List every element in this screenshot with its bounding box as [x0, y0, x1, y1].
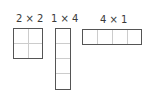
grid-2x2 [13, 28, 43, 59]
label-1x4: 1 × 4 [51, 14, 78, 24]
divider [14, 43, 42, 44]
divider [127, 30, 128, 44]
grid-4x1 [82, 29, 142, 45]
divider [56, 43, 70, 44]
label-4x1: 4 × 1 [100, 15, 127, 25]
divider [112, 30, 113, 44]
divider [56, 58, 70, 59]
grid-1x4 [55, 28, 71, 90]
label-2x2: 2 × 2 [16, 14, 43, 24]
divider [56, 73, 70, 74]
divider [97, 30, 98, 44]
